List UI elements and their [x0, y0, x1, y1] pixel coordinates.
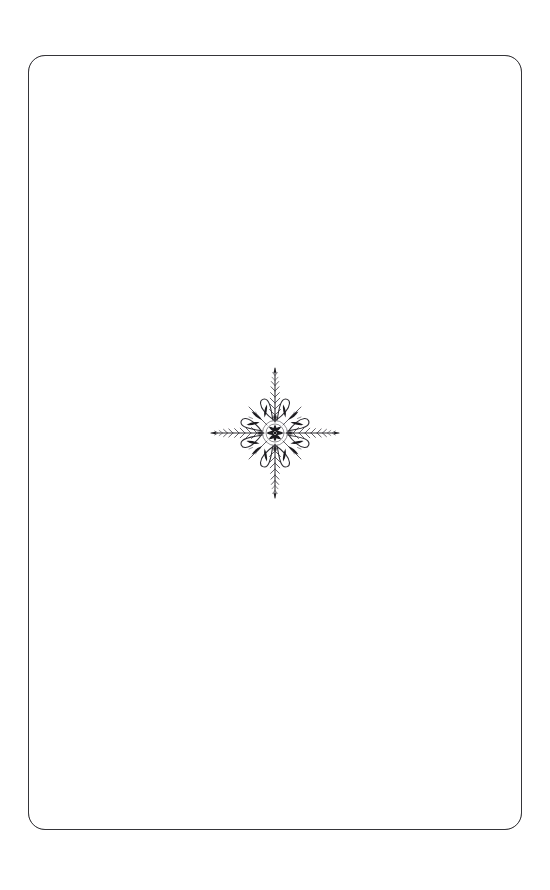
page-content-area — [28, 55, 522, 830]
central-fleuron-ornament — [205, 360, 345, 506]
center-rosette — [263, 420, 288, 445]
leaf-sprig-northwest — [247, 404, 268, 425]
ornament-container — [28, 55, 522, 830]
leaf-sprig-southeast — [283, 440, 304, 461]
leaf-sprig-southwest — [247, 440, 268, 461]
ornament-position-shim — [205, 360, 345, 506]
leaf-sprig-northeast — [283, 404, 304, 425]
scanned-page-canvas — [0, 0, 550, 890]
